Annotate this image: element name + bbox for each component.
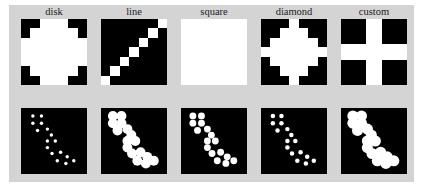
result-image-diamond[interactable] bbox=[261, 108, 327, 174]
panel-label-square: square bbox=[174, 6, 254, 18]
disk-icon bbox=[21, 19, 87, 85]
line-icon bbox=[101, 19, 167, 85]
dilated-points-disk bbox=[21, 108, 87, 174]
panel-label-diamond: diamond bbox=[254, 6, 334, 18]
result-image-custom[interactable] bbox=[341, 108, 407, 174]
result-image-disk[interactable] bbox=[21, 108, 87, 174]
dilated-points-diamond bbox=[261, 108, 327, 174]
diamond-icon bbox=[261, 19, 327, 85]
result-image-line[interactable] bbox=[101, 108, 167, 174]
dilated-points-custom bbox=[341, 108, 407, 174]
panel-label-disk: disk bbox=[14, 6, 94, 18]
panel-label-line: line bbox=[94, 6, 174, 18]
cross-icon bbox=[341, 19, 407, 85]
dilated-points-square bbox=[181, 108, 247, 174]
se-image-line[interactable] bbox=[101, 19, 167, 85]
panel-label-custom: custom bbox=[334, 6, 414, 18]
result-image-square[interactable] bbox=[181, 108, 247, 174]
se-image-diamond[interactable] bbox=[261, 19, 327, 85]
se-image-disk[interactable] bbox=[21, 19, 87, 85]
se-image-square[interactable] bbox=[181, 19, 247, 85]
square-icon bbox=[181, 19, 247, 85]
figure-canvas: disk line bbox=[0, 0, 423, 189]
se-image-custom[interactable] bbox=[341, 19, 407, 85]
dilated-points-line bbox=[101, 108, 167, 174]
